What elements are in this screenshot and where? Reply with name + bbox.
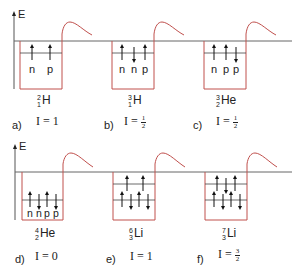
nuclide-label-f: 73Li [222, 226, 236, 241]
particle-label: n [36, 207, 42, 219]
particle-label: n [131, 63, 137, 75]
panel-tag-a: a) [12, 119, 22, 131]
particle-label: p [233, 63, 239, 75]
particle-label: p [142, 63, 148, 75]
energy-axis-label-top: E [18, 8, 25, 20]
panel-tag-c: c) [193, 119, 202, 131]
top-energy-axis [12, 11, 16, 89]
nuclide-label-d: 42He [35, 226, 55, 241]
particle-label: p [53, 207, 59, 219]
particle-label: p [44, 207, 50, 219]
particle-label: p [223, 63, 229, 75]
particle-label: n [27, 207, 33, 219]
spin-arrows-f [214, 177, 240, 208]
potential-well-a [20, 22, 92, 89]
panel-tag-b: b) [104, 119, 114, 131]
spin-arrows-c [214, 46, 236, 61]
potential-well-f [205, 153, 277, 220]
spin-value-d: I = 0 [35, 249, 58, 264]
potential-well-c [204, 22, 276, 89]
panel-tag-e: e) [106, 253, 116, 265]
spin-value-b: I = 12 [124, 114, 146, 130]
spin-value-a: I = 1 [36, 114, 59, 129]
nuclide-label-a: 21H [37, 93, 51, 108]
nuclide-label-e: 63Li [129, 226, 143, 241]
spin-arrows-e [122, 177, 148, 208]
potential-well-e [113, 153, 185, 220]
potential-well-b [112, 22, 184, 89]
particle-label: n [29, 63, 35, 75]
nuclide-label-c: 32He [216, 93, 236, 108]
particle-label: n [119, 63, 125, 75]
spin-value-c: I = 12 [216, 114, 238, 130]
panel-tag-f: f) [197, 253, 204, 265]
particle-label: p [47, 63, 53, 75]
nuclide-label-b: 31H [128, 93, 142, 108]
particle-label: n [211, 63, 217, 75]
spin-value-f: I = 32 [218, 247, 240, 263]
bottom-energy-axis [13, 144, 17, 220]
panel-tag-d: d) [15, 253, 25, 265]
energy-axis-label-bottom: E [19, 140, 26, 152]
spin-arrows-b [122, 46, 145, 61]
spin-value-e: I = 1 [130, 249, 153, 264]
spin-arrows-d [30, 193, 56, 208]
